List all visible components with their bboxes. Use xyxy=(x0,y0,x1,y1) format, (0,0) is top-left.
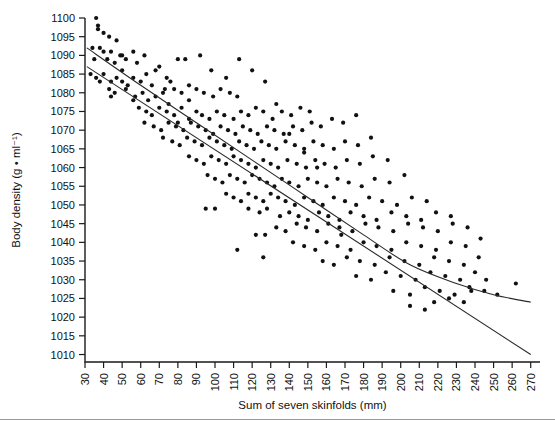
data-point xyxy=(417,263,421,267)
x-tick-label: 140 xyxy=(283,373,295,391)
data-point xyxy=(213,177,217,181)
data-point xyxy=(267,143,271,147)
data-point xyxy=(360,184,364,188)
data-point xyxy=(289,113,293,117)
data-point xyxy=(296,214,300,218)
data-point xyxy=(465,225,469,229)
data-point xyxy=(146,98,150,102)
y-tick-label: 1025 xyxy=(51,292,75,304)
data-point xyxy=(319,124,323,128)
data-point xyxy=(254,165,258,169)
data-point xyxy=(241,124,245,128)
data-point xyxy=(477,255,481,259)
x-tick-label: 130 xyxy=(265,373,277,391)
x-tick-label: 160 xyxy=(320,373,332,391)
data-point xyxy=(287,210,291,214)
data-point xyxy=(395,203,399,207)
data-point xyxy=(265,207,269,211)
data-point xyxy=(330,117,334,121)
data-point xyxy=(142,121,146,125)
data-point xyxy=(187,83,191,87)
data-point xyxy=(369,278,373,282)
data-point xyxy=(304,225,308,229)
data-point xyxy=(462,263,466,267)
data-point xyxy=(283,139,287,143)
data-point xyxy=(92,57,96,61)
data-point xyxy=(443,274,447,278)
x-tick-label: 190 xyxy=(376,373,388,391)
data-point xyxy=(432,300,436,304)
data-point xyxy=(386,158,390,162)
data-point xyxy=(447,259,451,263)
y-tick-labels: 1010101510201025103010351040104510501055… xyxy=(51,12,75,361)
data-point xyxy=(179,91,183,95)
data-point xyxy=(332,263,336,267)
data-point xyxy=(324,240,328,244)
data-point xyxy=(345,158,349,162)
data-point xyxy=(452,293,456,297)
data-point xyxy=(163,87,167,91)
data-point xyxy=(202,91,206,95)
data-point xyxy=(449,214,453,218)
data-point xyxy=(410,195,414,199)
data-point xyxy=(222,143,226,147)
data-point xyxy=(300,128,304,132)
y-tick-label: 1030 xyxy=(51,274,75,286)
data-point xyxy=(131,50,135,54)
data-point xyxy=(387,255,391,259)
data-point xyxy=(278,214,282,218)
data-point xyxy=(261,158,265,162)
data-point xyxy=(239,109,243,113)
data-point xyxy=(144,109,148,113)
data-point xyxy=(243,180,247,184)
data-point xyxy=(252,147,256,151)
data-point xyxy=(235,177,239,181)
data-point xyxy=(326,214,330,218)
data-point xyxy=(384,270,388,274)
data-point xyxy=(120,79,124,83)
y-tick-label: 1080 xyxy=(51,87,75,99)
data-point xyxy=(332,195,336,199)
data-point xyxy=(514,281,518,285)
data-point xyxy=(374,218,378,222)
y-tick-label: 1075 xyxy=(51,105,75,117)
data-point xyxy=(217,158,221,162)
data-point xyxy=(408,304,412,308)
data-point xyxy=(464,244,468,248)
x-tick-label: 250 xyxy=(488,373,500,391)
data-point xyxy=(107,35,111,39)
data-point xyxy=(380,199,384,203)
data-point xyxy=(274,225,278,229)
regression-curves xyxy=(87,48,531,355)
data-point xyxy=(451,222,455,226)
data-point xyxy=(257,210,261,214)
axis-lines xyxy=(85,18,540,362)
data-point xyxy=(165,76,169,80)
data-point xyxy=(231,117,235,121)
data-point xyxy=(228,173,232,177)
data-point xyxy=(213,207,217,211)
data-point xyxy=(438,289,442,293)
data-point xyxy=(246,113,250,117)
data-point xyxy=(389,210,393,214)
data-point xyxy=(246,192,250,196)
x-tick-label: 80 xyxy=(172,373,184,385)
data-point xyxy=(96,23,100,27)
data-point xyxy=(109,94,113,98)
data-point xyxy=(434,210,438,214)
data-point xyxy=(335,244,339,248)
data-point xyxy=(317,210,321,214)
data-point xyxy=(161,136,165,140)
data-point xyxy=(339,233,343,237)
data-point xyxy=(224,192,228,196)
data-point xyxy=(205,173,209,177)
data-point xyxy=(261,199,265,203)
data-point xyxy=(215,139,219,143)
y-tick-label: 1050 xyxy=(51,199,75,211)
data-point xyxy=(179,106,183,110)
y-tick-label: 1045 xyxy=(51,218,75,230)
data-point xyxy=(192,139,196,143)
data-point xyxy=(139,79,143,83)
y-tick-label: 1065 xyxy=(51,143,75,155)
data-point xyxy=(270,117,274,121)
